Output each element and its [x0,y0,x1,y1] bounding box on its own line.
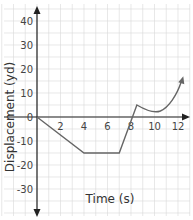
y-tick-labels: 403020100-10-20-30 [17,16,33,195]
y-axis-label: Displacement (yd) [3,62,17,172]
y-tick-label: 10 [20,88,33,99]
y-tick-label: -10 [17,136,33,147]
x-tick-label: 4 [81,121,87,132]
y-axis-up-arrow-icon [34,6,41,14]
displacement-time-chart: 24681012 403020100-10-20-30 Time (s) Dis… [0,0,193,220]
y-tick-label: 30 [20,40,33,51]
y-tick-label: -20 [17,160,33,171]
x-tick-label: 12 [172,121,185,132]
displacement-curve [37,76,184,153]
x-axis-arrow-icon [182,114,190,121]
x-tick-label: 6 [104,121,110,132]
y-tick-label: -30 [17,184,33,195]
x-tick-label: 10 [148,121,161,132]
x-axis-label: Time (s) [85,192,135,206]
x-tick-label: 2 [57,121,63,132]
y-tick-label: 40 [20,16,33,27]
y-axis [34,6,41,217]
curve-arrow-icon [178,76,184,84]
x-tick-labels: 24681012 [57,121,184,132]
y-tick-label: 20 [20,64,33,75]
y-tick-label: 0 [27,112,33,123]
